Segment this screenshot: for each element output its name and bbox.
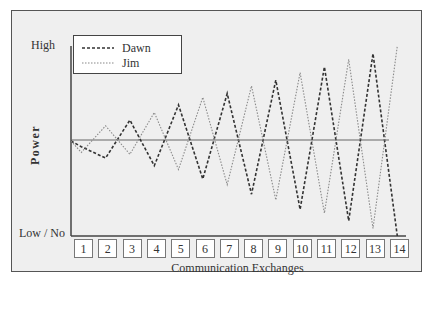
x-axis-title: Communication Exchanges: [0, 261, 435, 276]
x-tick-box: 6: [196, 239, 215, 258]
x-tick-box: 12: [341, 239, 360, 258]
x-tick-box: 11: [317, 239, 336, 258]
x-tick-box: 4: [147, 239, 166, 258]
dotted-line-icon: [80, 60, 116, 66]
x-tick-box: 13: [366, 239, 385, 258]
x-tick-box: 7: [220, 239, 239, 258]
dashed-line-icon: [80, 45, 116, 51]
x-tick-box: 14: [390, 239, 409, 258]
legend: Dawn Jim: [73, 35, 182, 74]
x-tick-box: 9: [268, 239, 287, 258]
legend-item-dawn: Dawn: [80, 41, 151, 55]
x-tick-box: 5: [171, 239, 190, 258]
series-dawn-line: [71, 54, 397, 236]
x-tick-box: 3: [123, 239, 142, 258]
x-tick-box: 8: [244, 239, 263, 258]
x-tick-box: 1: [74, 239, 93, 258]
x-tick-box: 10: [293, 239, 312, 258]
x-tick-box: 2: [98, 239, 117, 258]
legend-item-jim: Jim: [80, 56, 139, 70]
